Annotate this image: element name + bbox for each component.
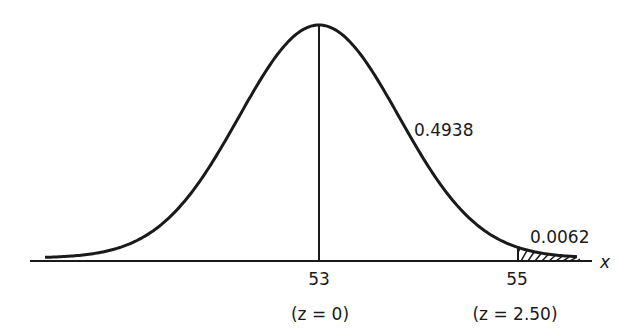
area-label-center: 0.4938 bbox=[414, 120, 473, 140]
value-tick-label: 55 bbox=[506, 269, 528, 289]
area-label-tail: 0.0062 bbox=[530, 227, 589, 247]
x-axis-label: x bbox=[599, 252, 611, 272]
mean-tick-label: 53 bbox=[308, 269, 330, 289]
normal-curve bbox=[45, 25, 577, 257]
normal-curve-diagram: x 53 (z = 0) 55 (z = 2.50) 0.4938 0.0062 bbox=[0, 0, 619, 330]
value-z-label: (z = 2.50) bbox=[472, 304, 557, 324]
mean-z-label: (z = 0) bbox=[291, 304, 349, 324]
